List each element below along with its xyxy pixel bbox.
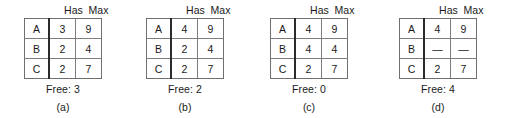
allocation-panel-b: Has Max A 4 9 B 2 4 C 2 7 Free: 2 (b) [122, 0, 248, 118]
free-label-c: Free: 0 [292, 83, 326, 95]
allocation-table-a: A 3 9 B 2 4 C 2 7 [24, 18, 102, 79]
row-max-c-0: 9 [322, 19, 348, 39]
row-name-d-0: A [400, 19, 425, 39]
row-max-c-2: 7 [322, 59, 348, 79]
row-has-d-2: 2 [424, 59, 451, 79]
resource-allocation-figure: Has Max A 3 9 B 2 4 C 2 7 Free: 3 (a) [0, 0, 505, 118]
table-row: C 2 7 [400, 59, 477, 79]
table-row: B 4 4 [271, 39, 348, 59]
row-has-d-1: — [424, 39, 451, 59]
row-has-a-2: 2 [49, 59, 76, 79]
row-name-b-2: C [147, 59, 172, 79]
row-max-a-2: 7 [76, 59, 102, 79]
allocation-table-b: A 4 9 B 2 4 C 2 7 [146, 18, 224, 79]
column-header-max-d: Max [461, 4, 486, 16]
row-max-a-1: 4 [76, 39, 102, 59]
panel-caption-a: (a) [57, 101, 70, 113]
column-headers-c: Has Max [284, 0, 358, 16]
column-headers-d: Has Max [413, 0, 487, 16]
column-headers-b: Has Max [160, 0, 234, 16]
table-row: C 2 7 [147, 59, 224, 79]
row-name-a-1: B [25, 39, 50, 59]
allocation-table-d: A 4 9 B — — C 2 7 [399, 18, 477, 79]
row-max-a-0: 9 [76, 19, 102, 39]
row-has-d-0: 4 [424, 19, 451, 39]
row-has-c-0: 4 [295, 19, 322, 39]
row-max-d-0: 9 [451, 19, 477, 39]
table-row: A 3 9 [25, 19, 102, 39]
allocation-table-c: A 4 9 B 4 4 C 2 7 [270, 18, 348, 79]
row-has-c-2: 2 [295, 59, 322, 79]
row-max-d-1: — [451, 39, 477, 59]
row-name-c-2: C [271, 59, 296, 79]
table-row: A 4 9 [400, 19, 477, 39]
table-row: B — — [400, 39, 477, 59]
allocation-panel-c: Has Max A 4 9 B 4 4 C 2 7 Free: 0 (c) [246, 0, 372, 118]
table-row: C 2 7 [271, 59, 348, 79]
table-row: B 2 4 [25, 39, 102, 59]
table-row: A 4 9 [271, 19, 348, 39]
row-has-a-1: 2 [49, 39, 76, 59]
column-header-has-d: Has [436, 4, 461, 16]
row-name-d-2: C [400, 59, 425, 79]
row-name-b-1: B [147, 39, 172, 59]
row-name-c-1: B [271, 39, 296, 59]
column-header-has-b: Has [183, 4, 208, 16]
row-max-b-0: 9 [198, 19, 224, 39]
table-row: B 2 4 [147, 39, 224, 59]
panel-caption-c: (c) [303, 101, 315, 113]
free-label-d: Free: 4 [421, 83, 455, 95]
column-header-has-c: Has [307, 4, 332, 16]
row-name-a-0: A [25, 19, 50, 39]
column-header-has-a: Has [61, 4, 86, 16]
column-header-max-a: Max [86, 4, 111, 16]
row-name-c-0: A [271, 19, 296, 39]
allocation-panel-d: Has Max A 4 9 B — — C 2 7 Free: 4 (d) [375, 0, 501, 118]
row-has-b-0: 4 [171, 19, 198, 39]
panel-caption-b: (b) [179, 101, 192, 113]
column-headers-a: Has Max [38, 0, 112, 16]
column-header-max-c: Max [332, 4, 357, 16]
table-row: C 2 7 [25, 59, 102, 79]
row-max-b-1: 4 [198, 39, 224, 59]
row-max-d-2: 7 [451, 59, 477, 79]
row-name-a-2: C [25, 59, 50, 79]
row-max-b-2: 7 [198, 59, 224, 79]
row-max-c-1: 4 [322, 39, 348, 59]
row-has-a-0: 3 [49, 19, 76, 39]
row-has-b-1: 2 [171, 39, 198, 59]
column-header-max-b: Max [208, 4, 233, 16]
free-label-a: Free: 3 [46, 83, 80, 95]
table-row: A 4 9 [147, 19, 224, 39]
row-name-d-1: B [400, 39, 425, 59]
row-has-b-2: 2 [171, 59, 198, 79]
allocation-panel-a: Has Max A 3 9 B 2 4 C 2 7 Free: 3 (a) [0, 0, 126, 118]
free-label-b: Free: 2 [168, 83, 202, 95]
row-has-c-1: 4 [295, 39, 322, 59]
row-name-b-0: A [147, 19, 172, 39]
panel-caption-d: (d) [432, 101, 445, 113]
